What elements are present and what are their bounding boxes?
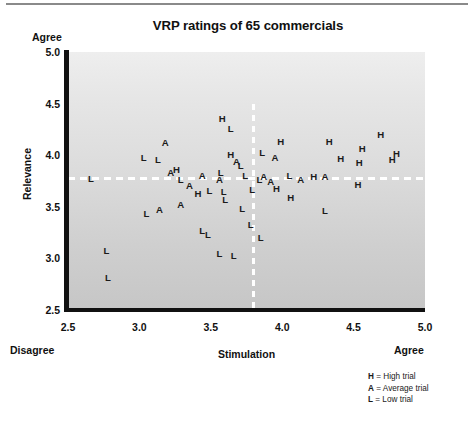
data-point-l: L <box>248 221 254 231</box>
y-tick-label: 4.0 <box>20 149 60 161</box>
x-axis-title: Stimulation <box>68 348 425 360</box>
data-point-l: L <box>205 230 211 240</box>
data-point-h: H <box>310 172 317 182</box>
data-point-l: L <box>88 174 94 184</box>
data-point-h: H <box>354 180 361 190</box>
data-point-h: H <box>326 137 333 147</box>
data-point-l: L <box>259 148 265 158</box>
data-point-h: H <box>377 130 384 140</box>
data-point-a: A <box>177 200 184 210</box>
data-point-h: H <box>287 193 294 203</box>
data-point-h: H <box>194 190 201 200</box>
data-point-l: L <box>238 161 244 171</box>
x-tick-label: 2.5 <box>48 321 88 333</box>
x-tick-label: 3.0 <box>119 321 159 333</box>
y-tick-label: 5.0 <box>20 46 60 58</box>
y-axis-line <box>64 50 69 312</box>
x-tick-label: 4.0 <box>262 321 302 333</box>
legend-separator: = <box>374 372 383 381</box>
scatter-plot-figure: VRP ratings of 65 commercials Agree Rele… <box>0 0 474 421</box>
data-point-h: H <box>173 165 180 175</box>
data-point-l: L <box>242 171 248 181</box>
data-point-l: L <box>178 175 184 185</box>
x-tick-label: 4.5 <box>334 321 374 333</box>
legend-label: Average trial <box>383 384 429 393</box>
data-point-h: H <box>393 149 400 159</box>
x-tick-label: 5.0 <box>405 321 445 333</box>
data-point-l: L <box>206 187 212 197</box>
data-point-h: H <box>273 184 280 194</box>
data-point-a: A <box>272 153 279 163</box>
data-point-a: A <box>199 171 206 181</box>
data-point-l: L <box>256 175 262 185</box>
data-point-a: A <box>216 175 223 185</box>
x-tick-label: 3.5 <box>191 321 231 333</box>
x-axis-line <box>64 308 425 313</box>
data-point-l: L <box>249 185 255 195</box>
data-point-h: H <box>219 114 226 124</box>
y-tick-label: 3.0 <box>20 252 60 264</box>
data-point-l: L <box>258 233 264 243</box>
data-point-l: L <box>141 153 147 163</box>
legend-label: High trial <box>383 372 415 381</box>
legend-label: Low trial <box>382 395 413 404</box>
legend-row: H = High trial <box>368 371 429 383</box>
data-point-l: L <box>228 125 234 135</box>
legend-separator: = <box>373 395 382 404</box>
vertical-reference-line <box>252 104 255 362</box>
legend-separator: = <box>374 384 383 393</box>
y-tick-label: 4.5 <box>20 98 60 110</box>
data-point-l: L <box>286 171 292 181</box>
data-point-l: L <box>239 204 245 214</box>
y-tick-label: 3.5 <box>20 201 60 213</box>
data-point-l: L <box>222 195 228 205</box>
data-point-a: A <box>186 181 193 191</box>
legend-row: L = Low trial <box>368 394 429 406</box>
data-point-a: A <box>156 205 163 215</box>
data-point-h: H <box>277 137 284 147</box>
x-axis-right-anchor-label: Agree <box>394 344 424 356</box>
data-point-l: L <box>216 249 222 259</box>
data-point-l: L <box>322 206 328 216</box>
data-point-l: L <box>155 156 161 166</box>
data-point-h: H <box>337 155 344 165</box>
legend-row: A = Average trial <box>368 383 429 395</box>
data-point-a: A <box>162 138 169 148</box>
data-point-l: L <box>231 252 237 262</box>
x-axis-left-anchor-label: Disagree <box>10 344 54 356</box>
data-point-a: A <box>322 172 329 182</box>
data-point-l: L <box>144 209 150 219</box>
chart-title: VRP ratings of 65 commercials <box>68 18 428 33</box>
data-point-l: L <box>104 246 110 256</box>
data-point-a: A <box>297 175 304 185</box>
y-tick-label: 2.5 <box>20 304 60 316</box>
data-point-h: H <box>359 144 366 154</box>
data-point-l: L <box>105 273 111 283</box>
y-axis-top-anchor-label: Agree <box>32 31 62 43</box>
data-point-h: H <box>356 159 363 169</box>
legend: H = High trialA = Average trialL = Low t… <box>368 371 429 406</box>
